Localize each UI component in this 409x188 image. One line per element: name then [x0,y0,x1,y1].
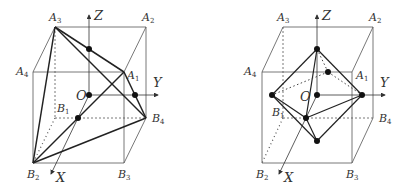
point-front [303,115,309,121]
label-B2: B2 [255,168,269,182]
label-Y: Y [153,75,163,90]
label-B4: B4 [378,112,392,126]
point-back [325,69,331,75]
label-A4: A4 [243,65,257,79]
label-O: O [76,88,87,103]
right-figure: A3 A2 A4 A1 B1 B4 B2 B3 O X Y Z [243,8,392,185]
right-axes [279,15,385,174]
label-B2: B2 [26,168,40,182]
point-x [75,115,81,121]
label-Z: Z [93,8,104,23]
label-X: X [283,170,294,185]
left-figure: A3 A2 A4 A1 B1 B4 B2 B3 O X Y Z [15,8,165,185]
point-z [86,46,92,52]
point-origin [314,92,320,98]
label-B3: B3 [117,168,131,182]
label-B1: B1 [56,102,70,116]
label-A4: A4 [15,65,29,79]
point-right [359,92,365,98]
label-A1: A1 [355,69,368,83]
label-A3: A3 [276,11,289,25]
label-B4: B4 [151,112,165,126]
label-X: X [55,170,66,185]
point-origin [86,92,92,98]
point-y [132,92,138,98]
label-B3: B3 [345,168,359,182]
label-A2: A2 [141,11,154,25]
label-A1: A1 [126,69,139,83]
label-Z: Z [321,8,332,23]
label-Y: Y [380,75,390,90]
point-bottom [314,138,320,144]
label-O: O [300,89,311,104]
label-B1: B1 [271,106,285,120]
label-A3: A3 [48,11,61,25]
point-left [269,92,275,98]
diagram-canvas: A3 A2 A4 A1 B1 B4 B2 B3 O X Y Z [0,0,409,188]
point-top [314,46,320,52]
label-A2: A2 [368,11,381,25]
